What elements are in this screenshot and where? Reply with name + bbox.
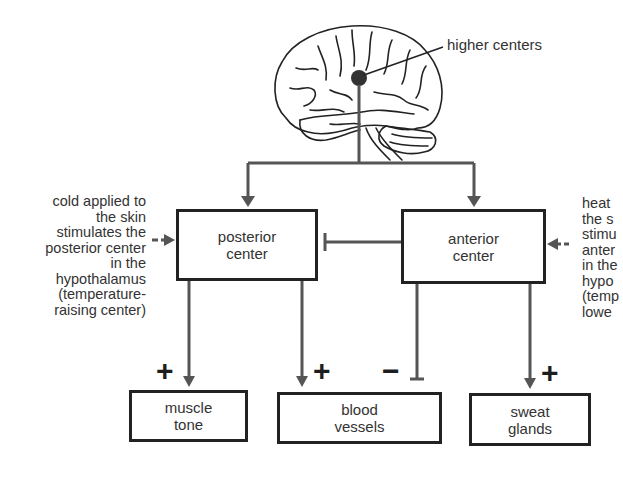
higher-centers-dot bbox=[351, 70, 367, 86]
higher-centers-label: higher centers bbox=[447, 36, 542, 53]
muscle-tone-box: muscle tone bbox=[129, 390, 248, 442]
sweat-glands-label: sweat glands bbox=[508, 403, 552, 437]
posterior-center-label: posterior center bbox=[218, 228, 276, 262]
posterior-center-box: posterior center bbox=[176, 209, 318, 281]
cold-stimulus-note: cold applied to the skin stimulates the … bbox=[20, 194, 146, 318]
anterior-center-label: anterior center bbox=[448, 230, 499, 264]
sweat-plus-sign: + bbox=[541, 358, 559, 388]
sweat-glands-box: sweat glands bbox=[469, 393, 591, 446]
blood-minus-sign: − bbox=[382, 356, 400, 386]
muscle-plus-sign: + bbox=[156, 356, 174, 386]
blood-vessels-label: blood vessels bbox=[334, 401, 384, 435]
blood-vessels-box: blood vessels bbox=[277, 392, 442, 444]
blood-plus-sign: + bbox=[313, 356, 331, 386]
anterior-center-box: anterior center bbox=[401, 209, 546, 284]
muscle-tone-label: muscle tone bbox=[165, 399, 213, 433]
heat-stimulus-note: heat the s stimu anter in the hypo (temp… bbox=[582, 196, 623, 320]
